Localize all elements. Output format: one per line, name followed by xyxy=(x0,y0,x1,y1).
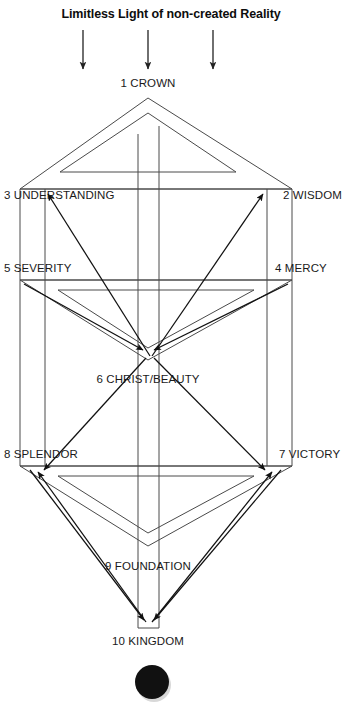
node-label-crown: 1 CROWN xyxy=(120,77,175,89)
node-label-kingdom: 10 KINGDOM xyxy=(112,635,184,647)
node-label-victory: 7 VICTORY xyxy=(279,448,340,460)
arrow-beauty-to-understanding xyxy=(48,194,150,356)
dark-seal-icon xyxy=(135,665,169,699)
inner-crown-triangle xyxy=(60,113,236,172)
node-label-mercy: 4 MERCY xyxy=(275,262,327,274)
diagram-title: Limitless Light of non-created Reality xyxy=(61,7,280,21)
diagram-canvas: Limitless Light of non-created Reality 1… xyxy=(0,0,343,705)
beauty-triangles-group xyxy=(20,280,292,360)
arrow-kingdom-to-splendor xyxy=(38,472,146,622)
node-label-foundation: 9 FOUNDATION xyxy=(105,560,191,572)
arrow-splendor-to-kingdom xyxy=(30,470,144,620)
tree-of-life-diagram: Limitless Light of non-created Reality 1… xyxy=(0,0,343,705)
light-beams-group xyxy=(83,30,213,69)
node-label-severity: 5 SEVERITY xyxy=(4,262,72,274)
emanation-arrows-group xyxy=(24,194,288,622)
upper-pyramid-group xyxy=(20,98,292,189)
inner-foundation-triangle xyxy=(58,476,254,533)
node-label-understanding: 3 UNDERSTANDING xyxy=(4,189,115,201)
arrow-victory-to-kingdom xyxy=(154,470,281,620)
arrow-kingdom-to-victory xyxy=(152,472,272,622)
middle-rectangle-group xyxy=(20,189,292,466)
arrow-beauty-to-wisdom xyxy=(152,194,263,356)
arrow-mercy-to-beauty xyxy=(154,284,288,350)
dark-seal-group xyxy=(135,665,171,702)
kingdom-pillars-group xyxy=(138,466,159,628)
node-label-splendor: 8 SPLENDOR xyxy=(4,448,78,460)
node-label-wisdom: 2 WISDOM xyxy=(283,189,342,201)
outer-crown-triangle xyxy=(20,98,292,189)
node-label-christ-beauty: 6 CHRIST/BEAUTY xyxy=(96,373,199,385)
